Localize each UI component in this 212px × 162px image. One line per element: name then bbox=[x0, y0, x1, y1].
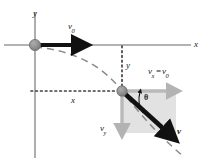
launch-ball bbox=[29, 39, 40, 50]
moving-ball bbox=[117, 86, 127, 96]
x-axis-label: x bbox=[194, 40, 198, 49]
projectile-motion-figure: y x v0 y x vx=v0 vy v θ bbox=[0, 0, 212, 162]
vy-subscript: y bbox=[104, 129, 107, 136]
vy-label: vy bbox=[100, 124, 107, 135]
vx-equals-v0-label: vx=v0 bbox=[148, 67, 169, 78]
y-axis-label: y bbox=[33, 9, 37, 18]
resultant-velocity-label: v bbox=[177, 127, 181, 136]
x-distance-label: x bbox=[71, 96, 75, 105]
vx-subscript: x bbox=[152, 72, 155, 79]
y-distance-label: y bbox=[126, 61, 130, 70]
figure-canvas bbox=[0, 0, 212, 162]
theta-label: θ bbox=[144, 94, 148, 102]
v0-subscript-right: 0 bbox=[165, 72, 168, 79]
v0-subscript: 0 bbox=[72, 27, 75, 34]
equals-sign: = bbox=[155, 66, 162, 76]
v0-label: v0 bbox=[68, 22, 75, 33]
